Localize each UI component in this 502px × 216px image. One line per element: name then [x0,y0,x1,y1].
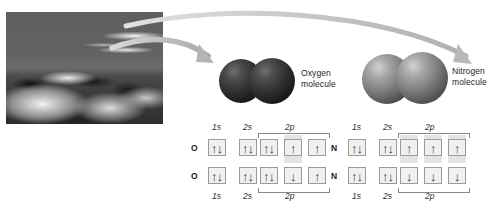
oxygen-row2-2p-box-1: ↑ ↓ [260,167,278,184]
nitrogen-footer-2p: 2p [425,191,434,201]
oxygen-molecule-label: Oxygen molecule [301,68,336,90]
oxygen-row2-1s-box: ↑ ↓ [208,167,226,184]
nitrogen-orbital-diagram: 1s 2s 2p N ↑ ↓ ↑ ↓ ↑ ↑ ↑ [326,122,471,204]
nitrogen-row2-1s-box: ↑ ↓ [348,167,366,184]
down-arrow-icon: ↓ [357,141,364,154]
oxygen-row1-2p-box-3: ↑ [308,139,326,156]
nitrogen-footer-1s: 1s [352,191,361,201]
oxygen-footer-2p: 2p [285,191,294,201]
oxygen-footer-2s: 2s [243,191,252,201]
down-arrow-icon: ↓ [290,169,297,182]
down-arrow-icon: ↓ [357,169,364,182]
oxygen-row-1: O ↑ ↓ ↑ ↓ ↑ ↓ ↑ ↑ [186,135,331,163]
oxygen-row1-2s-box: ↑ ↓ [239,139,257,156]
nitrogen-row2-element: N [331,171,337,181]
oxygen-label-line2: molecule [301,79,336,90]
oxygen-row1-element: O [191,143,198,153]
nitrogen-footer-row: 1s 2s 2p [326,191,471,204]
nitrogen-row-2: N ↑ ↓ ↑ ↓ ↓ ↓ ↓ [326,163,471,191]
nitrogen-header-2p: 2p [425,122,434,132]
nitrogen-header-1s: 1s [352,122,361,132]
nitrogen-molecule [362,50,446,110]
down-arrow-icon: ↓ [454,169,461,182]
oxygen-header-2s: 2s [243,122,252,132]
oxygen-header-1s: 1s [212,122,221,132]
nitrogen-row2-2p-box-1: ↓ [400,167,418,184]
down-arrow-icon: ↓ [430,169,437,182]
oxygen-row1-2p-box-2: ↑ [284,139,302,156]
nitrogen-row1-2s-box: ↑ ↓ [379,139,397,156]
up-arrow-icon: ↑ [314,141,321,154]
oxygen-footer-row: 1s 2s 2p [186,191,331,204]
down-arrow-icon: ↓ [388,141,395,154]
oxygen-molecule [219,57,297,109]
nitrogen-row1-2p-box-3: ↑ [448,139,466,156]
nitrogen-row2-2p-box-3: ↓ [448,167,466,184]
nitrogen-atom-right [396,52,448,104]
nitrogen-header-2s: 2s [383,122,392,132]
down-arrow-icon: ↓ [269,169,276,182]
oxygen-orbital-diagram: 1s 2s 2p O ↑ ↓ ↑ ↓ ↑ ↓ ↑ ↑ [186,122,331,204]
down-arrow-icon: ↓ [406,169,413,182]
nitrogen-row2-2p-box-2: ↓ [424,167,442,184]
up-arrow-icon: ↑ [454,141,461,154]
oxygen-atom-right [249,58,295,104]
oxygen-label-line1: Oxygen [301,68,336,79]
up-arrow-icon: ↑ [290,141,297,154]
nitrogen-row1-2p-box-1: ↑ [400,139,418,156]
oxygen-row2-element: O [191,171,198,181]
up-arrow-icon: ↑ [430,141,437,154]
desert-dunes-photo [6,12,163,124]
oxygen-row-2: O ↑ ↓ ↑ ↓ ↑ ↓ ↓ ↑ [186,163,331,191]
oxygen-row1-1s-box: ↑ ↓ [208,139,226,156]
oxygen-header-row: 1s 2s 2p [186,122,331,135]
down-arrow-icon: ↓ [248,169,255,182]
nitrogen-row1-1s-box: ↑ ↓ [348,139,366,156]
down-arrow-icon: ↓ [269,141,276,154]
nitrogen-footer-2s: 2s [383,191,392,201]
nitrogen-row1-element: N [331,143,337,153]
nitrogen-row2-2s-box: ↑ ↓ [379,167,397,184]
up-arrow-icon: ↑ [314,169,321,182]
nitrogen-header-row: 1s 2s 2p [326,122,471,135]
down-arrow-icon: ↓ [217,169,224,182]
nitrogen-molecule-label: Nitrogen molecule [452,66,487,88]
up-arrow-icon: ↑ [406,141,413,154]
nitrogen-label-line2: molecule [452,77,487,88]
down-arrow-icon: ↓ [388,169,395,182]
oxygen-header-2p: 2p [285,122,294,132]
oxygen-row2-2p-box-3: ↑ [308,167,326,184]
down-arrow-icon: ↓ [217,141,224,154]
figure-root: Oxygen molecule Nitrogen molecule 1s 2s … [0,0,502,216]
nitrogen-label-line1: Nitrogen [452,66,487,77]
nitrogen-row1-2p-box-2: ↑ [424,139,442,156]
nitrogen-row-1: N ↑ ↓ ↑ ↓ ↑ ↑ ↑ [326,135,471,163]
oxygen-row2-2p-box-2: ↓ [284,167,302,184]
oxygen-footer-1s: 1s [212,191,221,201]
down-arrow-icon: ↓ [248,141,255,154]
oxygen-row2-2s-box: ↑ ↓ [239,167,257,184]
oxygen-row1-2p-box-1: ↑ ↓ [260,139,278,156]
